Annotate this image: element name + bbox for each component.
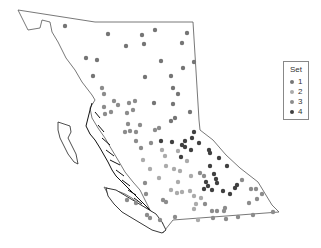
data-point-set-2 <box>175 191 179 195</box>
data-point-set-1 <box>192 60 196 64</box>
data-point-set-3 <box>109 110 113 114</box>
data-point-set-3 <box>138 123 142 127</box>
data-point-set-4 <box>202 187 206 191</box>
bc-map <box>0 0 321 248</box>
data-point-set-3 <box>260 192 264 196</box>
data-point-set-3 <box>134 201 138 205</box>
data-point-set-1 <box>152 101 156 105</box>
data-point-set-3 <box>157 126 161 130</box>
data-point-set-1 <box>173 116 177 120</box>
data-point-set-3 <box>123 130 127 134</box>
data-point-set-2 <box>164 164 168 168</box>
data-point-set-1 <box>171 86 175 90</box>
haida-gwaii <box>58 122 78 164</box>
data-point-set-1 <box>176 92 180 96</box>
data-point-set-3 <box>139 146 143 150</box>
data-point-set-3 <box>240 178 244 182</box>
data-point-set-4 <box>183 139 187 143</box>
data-point-set-1 <box>143 75 147 79</box>
legend-label: 2 <box>298 87 302 96</box>
data-point-set-3 <box>153 128 157 132</box>
data-point-set-1 <box>91 74 95 78</box>
legend-label: 3 <box>298 97 302 106</box>
legend-item-set-1: 1 <box>284 77 308 86</box>
data-point-set-2 <box>157 176 161 180</box>
data-point-set-3 <box>134 130 138 134</box>
legend-item-set-3: 3 <box>284 97 308 106</box>
data-point-set-1 <box>153 28 157 32</box>
data-point-set-3 <box>134 139 138 143</box>
data-point-set-3 <box>158 218 162 222</box>
data-point-set-3 <box>128 129 132 133</box>
legend-item-set-2: 2 <box>284 87 308 96</box>
data-point-set-3 <box>125 111 129 115</box>
legend-item-set-4: 4 <box>284 107 308 116</box>
data-point-set-4 <box>159 139 163 143</box>
data-point-set-4 <box>225 164 229 168</box>
legend-dot-icon <box>290 90 294 94</box>
data-point-set-1 <box>124 44 128 48</box>
data-point-set-2 <box>160 148 164 152</box>
data-point-set-2 <box>185 159 189 163</box>
data-point-set-2 <box>188 189 192 193</box>
data-point-set-3 <box>143 181 147 185</box>
data-point-set-2 <box>163 154 167 158</box>
data-point-set-4 <box>183 145 187 149</box>
legend: Set 1 2 3 4 <box>283 61 309 120</box>
data-point-set-1 <box>84 56 88 60</box>
data-point-set-1 <box>140 33 144 37</box>
province-outline <box>18 10 279 233</box>
data-point-set-2 <box>176 149 180 153</box>
data-point-set-2 <box>192 207 196 211</box>
data-point-set-1 <box>188 110 192 114</box>
data-point-set-3 <box>173 215 177 219</box>
data-point-set-4 <box>204 180 208 184</box>
data-point-set-3 <box>271 210 275 214</box>
data-point-set-3 <box>133 99 137 103</box>
data-point-set-1 <box>63 24 67 28</box>
data-point-set-1 <box>142 42 146 46</box>
data-point-set-1 <box>95 58 99 62</box>
data-point-set-2 <box>199 196 203 200</box>
data-point-set-4 <box>208 151 212 155</box>
data-point-set-4 <box>179 155 183 159</box>
data-point-set-3 <box>251 213 255 217</box>
data-point-set-3 <box>126 122 130 126</box>
data-point-set-3 <box>198 171 202 175</box>
data-point-set-4 <box>210 188 214 192</box>
data-point-set-4 <box>221 189 225 193</box>
data-point-set-2 <box>178 169 182 173</box>
data-point-set-2 <box>189 174 193 178</box>
data-point-set-4 <box>170 140 174 144</box>
data-point-set-2 <box>169 188 173 192</box>
data-point-set-2 <box>141 158 145 162</box>
data-point-set-2 <box>172 167 176 171</box>
data-point-set-3 <box>103 112 107 116</box>
data-point-set-3 <box>125 198 129 202</box>
data-point-set-3 <box>116 103 120 107</box>
data-point-set-4 <box>212 172 216 176</box>
data-point-set-3 <box>102 105 106 109</box>
data-point-set-3 <box>203 202 207 206</box>
data-point-set-4 <box>206 184 210 188</box>
data-point-set-1 <box>171 102 175 106</box>
data-point-set-2 <box>176 180 180 184</box>
data-point-set-4 <box>228 192 232 196</box>
data-point-set-2 <box>180 190 184 194</box>
data-point-set-4 <box>215 181 219 185</box>
legend-title: Set <box>284 65 308 74</box>
data-point-set-3 <box>224 217 228 221</box>
data-point-set-1 <box>169 74 173 78</box>
data-point-set-3 <box>210 209 214 213</box>
data-point-set-4 <box>189 148 193 152</box>
data-point-set-4 <box>208 164 212 168</box>
data-point-set-3 <box>144 192 148 196</box>
data-point-set-3 <box>102 92 106 96</box>
data-point-set-3 <box>223 206 227 210</box>
data-point-set-2 <box>192 194 196 198</box>
data-point-set-3 <box>215 209 219 213</box>
data-point-set-3 <box>249 187 253 191</box>
data-point-set-3 <box>164 200 168 204</box>
legend-label: 1 <box>298 77 302 86</box>
data-point-set-3 <box>255 197 259 201</box>
